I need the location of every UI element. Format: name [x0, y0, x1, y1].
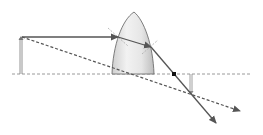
parallel-ray-refracted: [151, 47, 216, 123]
ray-diagram: [0, 0, 263, 135]
plano-convex-lens: [112, 12, 154, 74]
focal-point-marker: [172, 72, 176, 76]
object-arrow: [19, 36, 24, 74]
ray-diagram-canvas: [0, 0, 263, 135]
